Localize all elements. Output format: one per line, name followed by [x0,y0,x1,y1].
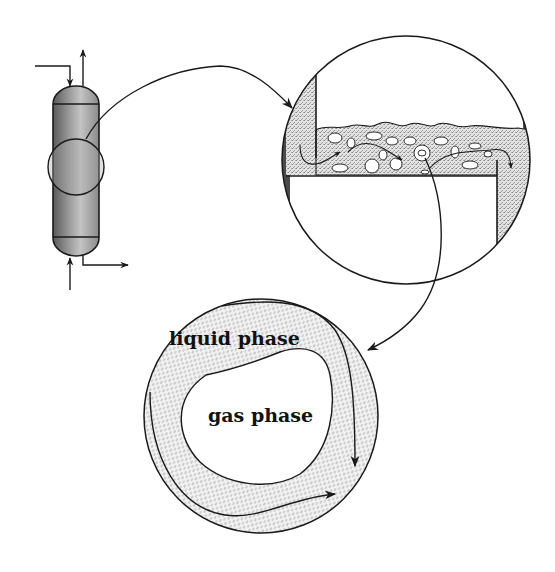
diagram-canvas: liquid phase gas phase [0,0,555,572]
liquid-phase-label: liquid phase [169,327,300,349]
bottom-outlet-arrow [83,256,128,265]
tray-detail-view [282,36,531,284]
bubble-detail-view: liquid phase gas phase [144,299,378,533]
vessel-magnifier-circle [48,139,104,195]
feed-inlet-arrow [35,66,70,86]
gas-phase-label: gas phase [208,404,313,426]
magnify-connector-arrow-1 [86,66,292,139]
column-vessel [35,50,128,290]
